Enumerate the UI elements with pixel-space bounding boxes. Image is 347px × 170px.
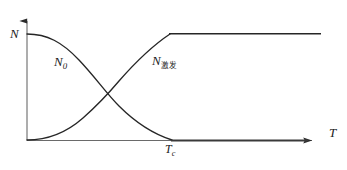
x-axis-tick-label-subscript: c [172, 149, 176, 158]
curve-label-excited-state: N激发 [152, 54, 176, 69]
x-axis-tick-label-critical-temperature: Tc [165, 143, 175, 158]
y-axis-label: N [10, 27, 19, 40]
curve-label-excited-state-base: N [152, 53, 161, 68]
curve-excited-state [27, 34, 170, 140]
figure-container: N N0 N激发 Tc T [0, 0, 347, 170]
curve-label-ground-state-base: N [54, 54, 63, 69]
curve-label-ground-state: N0 [54, 55, 67, 71]
curve-label-excited-state-subscript: 激发 [161, 61, 177, 70]
x-axis-label: T [329, 126, 336, 139]
curve-label-ground-state-subscript: 0 [63, 61, 67, 71]
x-axis-tick-label-base: T [165, 142, 172, 156]
